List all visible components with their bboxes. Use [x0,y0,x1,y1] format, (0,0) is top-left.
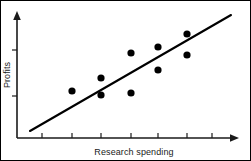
data-point [97,74,104,81]
x-axis [17,133,239,142]
trend-line [30,15,231,131]
data-point [127,49,134,56]
data-point [183,51,190,58]
data-point-series [68,30,190,98]
data-point [68,87,75,94]
y-axis-arrowhead [13,11,21,20]
x-axis-arrowhead [230,134,239,142]
data-point [97,91,104,98]
scatter-plot-figure: Research spending Profits [0,0,251,161]
y-axis-title: Profits [2,62,12,89]
x-axis-title: Research spending [94,147,173,157]
y-axis [12,11,21,138]
data-point [127,89,134,96]
data-point [154,66,161,73]
data-point [154,43,161,50]
data-point [183,30,190,37]
plot-canvas: Research spending Profits [0,0,251,161]
